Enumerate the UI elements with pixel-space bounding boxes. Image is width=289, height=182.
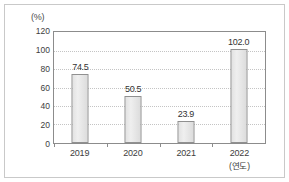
y-tick-label: 80 bbox=[28, 64, 50, 74]
x-tick-label-text: 2021 bbox=[177, 148, 196, 158]
bar-value-label: 102.0 bbox=[228, 37, 249, 47]
y-tick-label: 40 bbox=[28, 101, 50, 111]
y-tick-label: 20 bbox=[28, 120, 50, 130]
bar-slot: 50.5 bbox=[107, 32, 160, 143]
x-axis-tick bbox=[107, 143, 108, 147]
y-tick-label: 0 bbox=[28, 139, 50, 149]
y-axis-unit-label: (%) bbox=[31, 12, 44, 22]
x-axis-unit-label: (연도) bbox=[229, 159, 250, 171]
y-tick-label: 120 bbox=[28, 26, 50, 36]
bar-slot: 74.5 bbox=[54, 32, 107, 143]
x-axis-tick bbox=[212, 143, 213, 147]
y-tick-label: 100 bbox=[28, 45, 50, 55]
bar-value-label: 74.5 bbox=[72, 62, 88, 72]
x-tick-label-2021: 2021 bbox=[177, 148, 196, 158]
bar[interactable] bbox=[125, 96, 142, 143]
bar[interactable] bbox=[230, 49, 247, 143]
y-tick-label: 60 bbox=[28, 83, 50, 93]
x-axis-tick-labels: 2019 2020 2021 2022 (연도) bbox=[53, 148, 266, 178]
x-tick-label-2022: 2022 (연도) bbox=[229, 148, 250, 171]
x-tick-label-text: 2022 bbox=[230, 148, 249, 158]
bar-slot: 102.0 bbox=[212, 32, 265, 143]
plot-area: 74.5 50.5 23.9 102.0 bbox=[53, 31, 266, 144]
bar-value-label: 23.9 bbox=[178, 109, 194, 119]
y-axis-tick-labels: 120 100 80 60 40 20 0 bbox=[26, 31, 50, 144]
bar-slot: 23.9 bbox=[160, 32, 213, 143]
bar[interactable] bbox=[72, 74, 89, 143]
chart-screenshot: (%) 120 100 80 60 40 20 0 74.5 50.5 23.9 bbox=[0, 0, 289, 182]
x-tick-label-2019: 2019 bbox=[70, 148, 89, 158]
x-tick-label-text: 2020 bbox=[123, 148, 142, 158]
x-tick-label-2020: 2020 bbox=[123, 148, 142, 158]
bar-value-label: 50.5 bbox=[125, 84, 141, 94]
x-axis-tick bbox=[160, 143, 161, 147]
x-tick-label-text: 2019 bbox=[70, 148, 89, 158]
x-axis-tick bbox=[54, 143, 55, 147]
bar[interactable] bbox=[177, 121, 194, 143]
